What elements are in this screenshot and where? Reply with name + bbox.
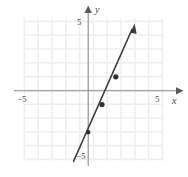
- y-axis: [85, 6, 92, 167]
- figure-root: −5 5 5 −5 x y: [0, 0, 188, 177]
- coordinate-plane-svg: [0, 0, 188, 177]
- data-point: [86, 130, 90, 134]
- data-point: [113, 74, 118, 79]
- grid-lines: [24, 18, 162, 160]
- data-point: [99, 102, 104, 107]
- plotted-line: [74, 24, 137, 162]
- x-axis: [14, 87, 184, 94]
